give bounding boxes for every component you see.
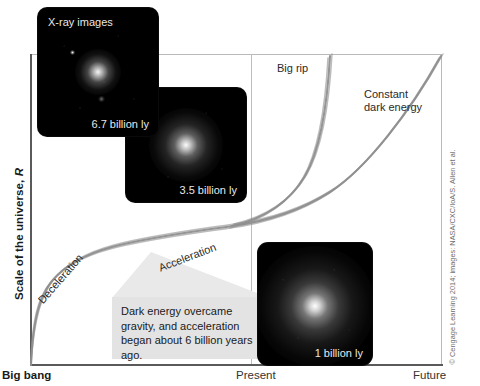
y-axis-label-text: Scale of the universe, [13,176,25,300]
xray-panel-1-billion-ly: 1 billion ly [258,243,372,365]
y-axis-label-symbol: R [13,168,25,176]
x-tick-future: Future [413,369,446,381]
curve-label-big-rip: Big rip [277,62,308,74]
callout-box: Dark energy overcame gravity, and accele… [112,297,270,359]
xray-caption-3: 1 billion ly [315,347,363,359]
xray-panel-6-7-billion-ly: X-ray images 6.7 billion ly [38,8,158,136]
cluster-glow-2 [149,108,223,182]
xray-point-source-2 [98,96,105,102]
curve-label-constant-dark-energy: Constant dark energy [364,88,422,114]
x-tick-big-bang: Big bang [2,369,51,381]
cluster-glow-1 [75,49,121,95]
cosmic-expansion-figure: Dark energy overcame gravity, and accele… [0,0,480,386]
image-credit: © Cengage Learning 2014; images: NASA/CX… [448,135,457,365]
constant-dark-energy-line-1: Constant [364,88,422,101]
xray-caption-2: 3.5 billion ly [180,184,237,196]
y-axis-label: Scale of the universe, R [13,159,25,309]
xray-panel-title: X-ray images [48,16,113,28]
xray-caption-1: 6.7 billion ly [92,118,149,130]
xray-point-source-1 [70,50,75,55]
constant-dark-energy-line-2: dark energy [364,101,422,114]
x-tick-present: Present [236,369,276,381]
